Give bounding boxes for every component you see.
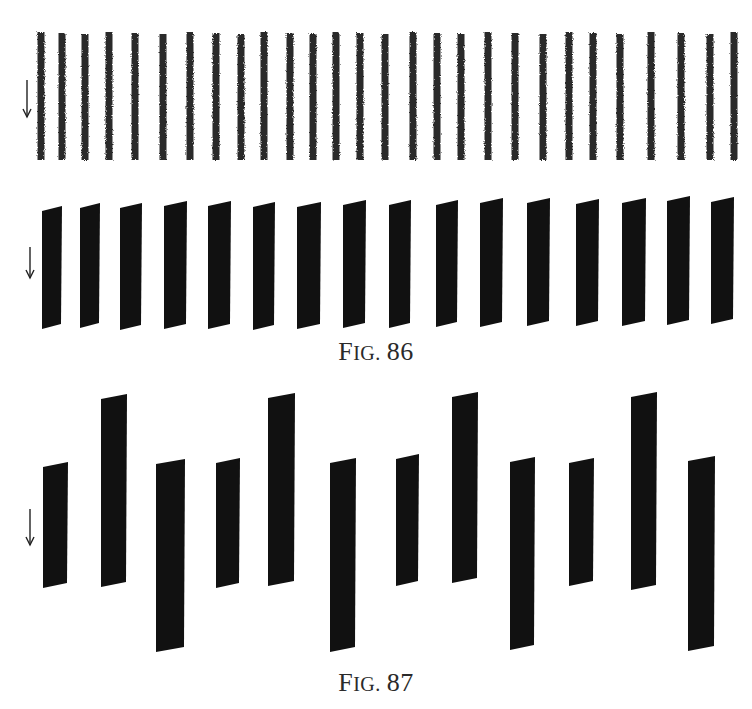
fig-87-caption: FIG. 87 [0, 668, 752, 698]
figure-87: FIG. 87 [0, 0, 752, 709]
varied-bar [268, 393, 295, 586]
varied-bar [688, 456, 715, 651]
varied-bar [101, 394, 127, 587]
varied-bar [569, 458, 594, 586]
varied-bar [452, 392, 478, 583]
varied-bar [216, 458, 240, 588]
varied-bar [631, 392, 657, 590]
varied-bar [156, 459, 185, 652]
caption-prefix: IG. [353, 673, 381, 695]
varied-bar [43, 462, 68, 588]
caption-initial: F [338, 668, 353, 697]
caption-number: 87 [387, 668, 414, 697]
fig-87-varied-bars [0, 0, 752, 709]
varied-bar [396, 454, 419, 586]
varied-bar [510, 457, 535, 650]
down-arrow-icon [26, 509, 34, 545]
varied-bar [330, 458, 356, 652]
